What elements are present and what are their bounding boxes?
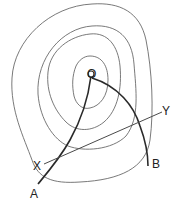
contour-line-1 bbox=[12, 4, 152, 183]
path-o-to-a bbox=[38, 76, 91, 184]
label-a: A bbox=[30, 187, 38, 201]
contour-diagram: O A B X Y bbox=[0, 0, 176, 205]
label-o: O bbox=[87, 67, 96, 81]
contour-line-2 bbox=[38, 26, 136, 149]
label-b: B bbox=[152, 157, 160, 171]
contour-line-3 bbox=[48, 34, 121, 130]
label-x: X bbox=[33, 159, 41, 173]
label-y: Y bbox=[162, 104, 170, 118]
